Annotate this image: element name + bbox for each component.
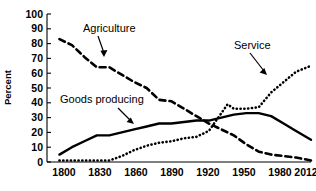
x-tick-label-7: 2012 — [294, 166, 316, 178]
annotation-arrowhead-service — [260, 68, 267, 75]
y-axis-title: Percent — [2, 69, 13, 105]
y-tick-label-8: 80 — [31, 37, 43, 49]
x-tick-label-4: 1920 — [196, 166, 220, 178]
annotation-label-goods-producing: Goods producing — [60, 93, 144, 105]
y-tick-label-9: 90 — [31, 22, 43, 34]
series-line-goods-producing — [59, 113, 311, 154]
x-tick-label-1: 1830 — [88, 166, 112, 178]
annotation-service: Service — [234, 39, 271, 75]
chart-container: Percent 0 10 20 30 40 50 60 70 80 90 — [0, 0, 316, 191]
x-tick-label-3: 1890 — [160, 166, 184, 178]
y-tick-label-6: 60 — [31, 67, 43, 79]
x-tick-label-0: 1800 — [52, 166, 76, 178]
annotation-leader-agriculture — [98, 36, 104, 53]
y-tick-label-10: 100 — [25, 8, 43, 20]
y-tick-label-4: 40 — [31, 96, 43, 108]
x-tick-label-6: 1980 — [268, 166, 292, 178]
y-tick-label-3: 30 — [31, 111, 43, 123]
y-tick-label-2: 20 — [31, 126, 43, 138]
line-chart: Percent 0 10 20 30 40 50 60 70 80 90 — [0, 0, 316, 191]
annotation-leader-service — [250, 53, 264, 71]
series-line-service — [59, 66, 311, 161]
annotation-leader-goods-producing — [118, 108, 131, 121]
annotation-agriculture: Agriculture — [83, 22, 136, 57]
annotation-label-service: Service — [234, 39, 271, 51]
x-tick-label-5: 1950 — [232, 166, 256, 178]
x-axis-ticks: 1800 1830 1860 1890 1920 1950 1980 2012 — [52, 166, 316, 178]
y-tick-label-0: 0 — [37, 156, 43, 168]
annotation-goods-producing: Goods producing — [60, 93, 144, 124]
annotation-arrowhead-agriculture — [100, 50, 107, 57]
y-tick-label-7: 70 — [31, 52, 43, 64]
y-tick-label-1: 10 — [31, 141, 43, 153]
annotation-label-agriculture: Agriculture — [83, 22, 136, 34]
y-tick-label-5: 50 — [31, 82, 43, 94]
x-tick-label-2: 1860 — [124, 166, 148, 178]
